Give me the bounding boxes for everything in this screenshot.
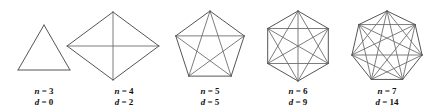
sides-count-label-value: 6 <box>303 86 308 96</box>
sides-count-label-value: 7 <box>392 86 397 96</box>
sides-count-label-value: 5 <box>215 86 220 96</box>
caption-heptagon: n = 7d = 14 <box>375 86 399 107</box>
diagonals-count-label: d = 14 <box>375 97 399 107</box>
diagonals-count-label: d = 5 <box>201 97 220 107</box>
sides-count-label: n = 3 <box>34 86 54 96</box>
sides-count-label-value: 4 <box>129 86 134 96</box>
diagonals-count-label-value: 9 <box>303 97 308 107</box>
diagonals-count-label: d = 0 <box>35 97 54 107</box>
diagonals-count-label-equals: = <box>205 97 215 107</box>
caption-quadrilateral: n = 4d = 2 <box>114 86 134 107</box>
diagonals-count-label: d = 2 <box>115 97 134 107</box>
diagonals-count-label-value: 0 <box>49 97 54 107</box>
polygon-diagonals-figure: n = 3d = 0n = 4d = 2n = 5d = 5n = 6d = 9… <box>0 0 432 112</box>
sides-count-label-equals: = <box>39 86 49 96</box>
sides-count-label-equals: = <box>382 86 392 96</box>
diagonals-count-label-equals: = <box>119 97 129 107</box>
diagonals-count-label: d = 9 <box>289 97 308 107</box>
sides-count-label: n = 6 <box>288 86 308 96</box>
diagonals-count-label-value: 14 <box>390 97 400 107</box>
diagonals-count-label-value: 5 <box>215 97 220 107</box>
sides-count-label: n = 5 <box>200 86 220 96</box>
sides-count-label: n = 7 <box>377 86 397 96</box>
diagonals-count-label-equals: = <box>39 97 49 107</box>
caption-pentagon: n = 5d = 5 <box>200 86 220 107</box>
sides-count-label-equals: = <box>293 86 303 96</box>
caption-triangle: n = 3d = 0 <box>34 86 54 107</box>
diagonals-count-label-value: 2 <box>129 97 134 107</box>
caption-hexagon: n = 6d = 9 <box>288 86 308 107</box>
sides-count-label-value: 3 <box>49 86 54 96</box>
sides-count-label: n = 4 <box>114 86 134 96</box>
sides-count-label-equals: = <box>205 86 215 96</box>
diagonals-count-label-equals: = <box>380 97 390 107</box>
sides-count-label-equals: = <box>119 86 129 96</box>
diagonals-count-label-equals: = <box>293 97 303 107</box>
